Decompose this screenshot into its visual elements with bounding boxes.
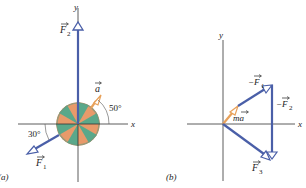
label-neg-F1: −F (248, 77, 260, 87)
panel-a: F 2 y x a 50° 30° F 1 (a) (0, 2, 135, 182)
label-neg-F2-sub: 2 (289, 104, 293, 112)
y-label-a: y (73, 2, 78, 12)
angle-30: 30° (28, 129, 41, 139)
panel-b: y x ma −F 1 −F 2 F (166, 30, 302, 182)
label-F1: F (35, 157, 43, 168)
label-F2-sub: 2 (67, 30, 71, 38)
panel-a-label: (a) (0, 172, 9, 182)
label-neg-F2: −F (276, 99, 288, 109)
vector-neg-F2 (267, 85, 277, 159)
label-F1-sub: 1 (43, 163, 47, 171)
vector-neg-F1 (238, 85, 272, 106)
force-diagram: F 2 y x a 50° 30° F 1 (a) (0, 0, 306, 188)
x-label-b: x (297, 119, 302, 129)
label-F2: F (59, 24, 67, 35)
label-F3: F (251, 162, 259, 173)
x-label-a: x (130, 119, 135, 129)
label-neg-F1-sub: 1 (261, 82, 265, 90)
label-F3-sub: 3 (259, 168, 263, 176)
vector-F3 (223, 124, 270, 160)
angle-50: 50° (109, 103, 122, 113)
panel-b-label: (b) (166, 172, 177, 182)
y-label-b: y (218, 30, 223, 40)
label-ma: ma (233, 113, 244, 123)
